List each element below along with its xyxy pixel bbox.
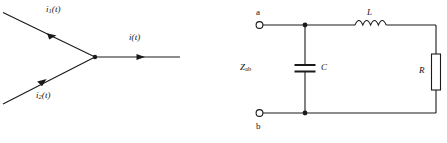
current-junction-diagram xyxy=(3,13,180,105)
inductor-l-label: L xyxy=(367,8,372,17)
terminal-a-marker xyxy=(256,22,263,29)
terminal-b-label: b xyxy=(256,122,261,131)
rlc-circuit-diagram xyxy=(256,21,440,117)
resistor-r-label: R xyxy=(419,66,425,75)
label-i2: i2(t) xyxy=(36,91,51,101)
junction-node xyxy=(93,55,97,59)
impedance-zab-label: Zab xyxy=(240,63,251,73)
capacitor-c-label: C xyxy=(321,63,327,72)
label-i1-arg: (t) xyxy=(52,4,61,14)
figure-canvas xyxy=(0,0,447,143)
top-node xyxy=(303,23,308,28)
terminal-a-label: a xyxy=(256,8,260,17)
impedance-zab-subscript: ab xyxy=(245,65,251,72)
resistor-r-body xyxy=(432,54,441,90)
label-i2-arg: (t) xyxy=(42,90,51,100)
label-i1: i1(t) xyxy=(46,5,61,15)
terminal-b-marker xyxy=(256,110,263,117)
label-i-out-arg: (t) xyxy=(132,32,141,42)
outgoing-branch-arrowhead xyxy=(137,54,146,60)
label-i-out: i(t) xyxy=(129,33,140,42)
figure-root: i1(t) i2(t) i(t) a b Zab C L R xyxy=(0,0,447,143)
inductor-l-coil xyxy=(355,21,386,26)
bottom-node xyxy=(303,111,308,116)
incoming-branch-1-arrowhead xyxy=(47,33,57,39)
